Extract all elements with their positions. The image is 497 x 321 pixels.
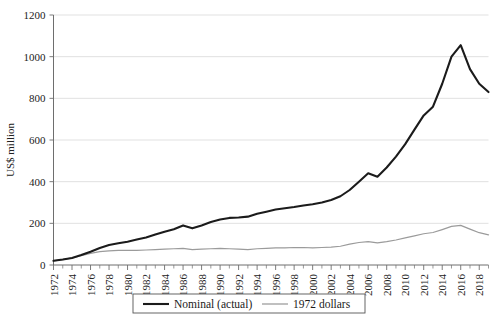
y-axis-tick-label: 0	[40, 259, 46, 271]
x-axis-tick-label: 2014	[436, 274, 448, 297]
x-axis-tick-label: 1992	[233, 274, 245, 296]
x-axis-tick-label: 1972	[48, 274, 60, 296]
x-axis-tick-label: 1994	[251, 274, 263, 297]
gridlines-group	[54, 15, 489, 223]
y-axis-tick-label: 1200	[24, 9, 47, 21]
series-line-nominal-actual	[54, 45, 489, 261]
x-axis-tick-label: 1982	[140, 274, 152, 296]
y-axis-title: US$ million	[4, 122, 16, 177]
x-axis-tick-label: 1976	[85, 274, 97, 297]
x-axis-tick-label: 1996	[270, 274, 282, 297]
x-axis-tick-label: 2010	[399, 274, 411, 297]
y-axis-tick-label: 600	[29, 134, 46, 146]
y-axis-tick-label: 200	[29, 217, 46, 229]
x-axis-tick-label: 1998	[288, 274, 300, 297]
x-axis-tick-label: 2018	[473, 274, 485, 297]
x-axis-tick-label: 2012	[418, 274, 430, 296]
y-axis-tick-label: 1000	[24, 51, 47, 63]
x-axis-tick-label: 1984	[159, 274, 171, 297]
y-axis-tick-label: 400	[29, 176, 46, 188]
x-axis-tick-label: 2008	[381, 274, 393, 297]
legend-label-nominal-actual: Nominal (actual)	[174, 298, 252, 311]
legend-label-1972-dollars: 1972 dollars	[293, 298, 351, 310]
x-axis-tick-label: 1990	[214, 274, 226, 297]
x-axis-tick-label: 1974	[66, 274, 78, 297]
x-axis-tick-label: 1980	[122, 274, 134, 297]
y-axis-tick-labels-group: 020040060080010001200	[24, 9, 47, 271]
x-axis-tick-label: 2002	[325, 274, 337, 296]
x-axis-tick-label: 1978	[103, 274, 115, 297]
x-axis-tick-label: 2016	[455, 274, 467, 297]
x-axis-tick-label: 1988	[196, 274, 208, 297]
x-axis-tick-labels-group: 1972197419761978198019821984198619881990…	[48, 274, 486, 297]
x-axis-tick-label: 1986	[177, 274, 189, 297]
line-chart: 020040060080010001200 197219741976197819…	[0, 0, 497, 321]
chart-container: 020040060080010001200 197219741976197819…	[0, 0, 497, 321]
legend: Nominal (actual) 1972 dollars	[133, 294, 365, 313]
y-axis-ticks-group	[50, 15, 54, 265]
x-axis-tick-label: 2006	[362, 274, 374, 297]
x-axis-tick-label: 2000	[307, 274, 319, 297]
x-axis-tick-label: 2004	[344, 274, 356, 297]
y-axis-tick-label: 800	[29, 92, 46, 104]
